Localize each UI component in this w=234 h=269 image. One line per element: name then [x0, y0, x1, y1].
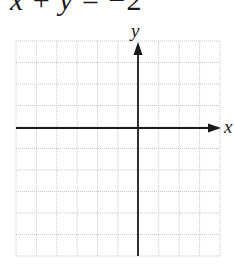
coordinate-grid: [0, 0, 234, 269]
y-axis-arrow-icon: [134, 42, 143, 55]
x-axis-arrow-icon: [208, 124, 221, 133]
y-axis-label: y: [131, 21, 139, 40]
grid-lines: [16, 41, 220, 256]
x-axis-label: x: [224, 117, 232, 136]
